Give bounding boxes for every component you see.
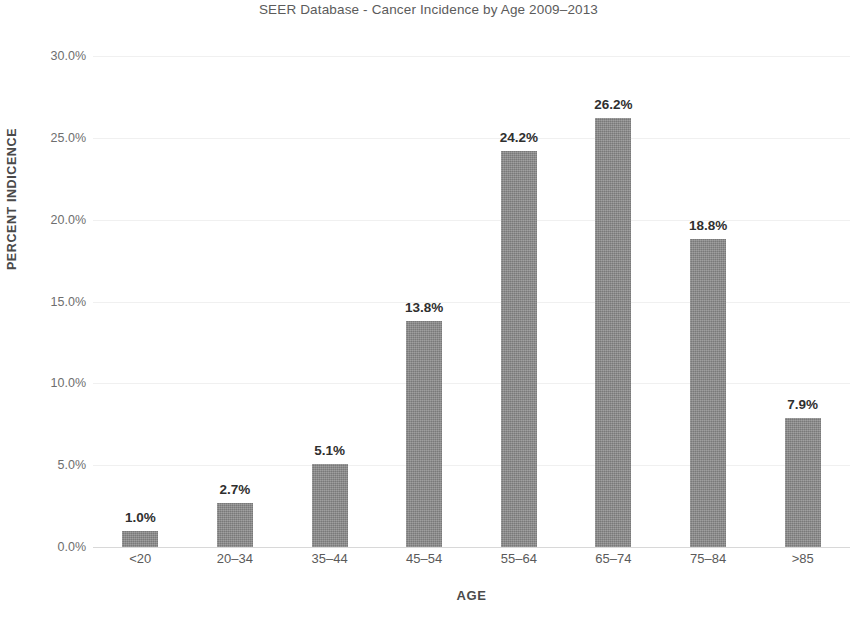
bar-group: 7.9% xyxy=(785,56,821,547)
bar-group: 1.0% xyxy=(122,56,158,547)
x-axis-title: AGE xyxy=(93,588,850,603)
x-axis-tick-label: 65–74 xyxy=(595,551,631,566)
bar-value-label: 2.7% xyxy=(220,482,251,497)
x-axis-tick-label: 55–64 xyxy=(501,551,537,566)
bar[interactable] xyxy=(501,151,537,547)
x-axis-tick-label: <20 xyxy=(129,551,151,566)
y-axis-tick-labels: 0.0%5.0%10.0%15.0%20.0%25.0%30.0% xyxy=(0,56,86,547)
gridline xyxy=(93,56,850,57)
y-axis-tick-label: 25.0% xyxy=(51,131,86,145)
bar-value-label: 1.0% xyxy=(125,510,156,525)
y-axis-tick-label: 30.0% xyxy=(51,49,86,63)
bar-value-label: 18.8% xyxy=(689,218,727,233)
y-axis-tick-label: 15.0% xyxy=(51,295,86,309)
x-axis-tick-label: >85 xyxy=(792,551,814,566)
plot-area: 1.0%2.7%5.1%13.8%24.2%26.2%18.8%7.9% xyxy=(93,56,850,547)
bar[interactable] xyxy=(406,321,442,547)
x-axis-tick-label: 45–54 xyxy=(406,551,442,566)
bar-group: 18.8% xyxy=(690,56,726,547)
bar-group: 13.8% xyxy=(406,56,442,547)
gridline xyxy=(93,465,850,466)
bar[interactable] xyxy=(122,531,158,547)
gridline xyxy=(93,383,850,384)
x-axis-tick-label: 20–34 xyxy=(217,551,253,566)
bar-group: 24.2% xyxy=(501,56,537,547)
bar[interactable] xyxy=(217,503,253,547)
bar[interactable] xyxy=(595,118,631,547)
gridline xyxy=(93,220,850,221)
y-axis-tick-label: 5.0% xyxy=(58,458,87,472)
bar[interactable] xyxy=(785,418,821,547)
bar[interactable] xyxy=(690,239,726,547)
y-axis-tick-label: 10.0% xyxy=(51,376,86,390)
bar-value-label: 5.1% xyxy=(314,443,345,458)
x-axis-baseline xyxy=(93,547,850,548)
bar-value-label: 7.9% xyxy=(787,397,818,412)
gridline xyxy=(93,302,850,303)
bar-value-label: 24.2% xyxy=(500,130,538,145)
bar-value-label: 13.8% xyxy=(405,300,443,315)
bar-value-label: 26.2% xyxy=(594,97,632,112)
y-axis-tick-label: 20.0% xyxy=(51,213,86,227)
bar-chart-figure: SEER Database - Cancer Incidence by Age … xyxy=(0,0,857,626)
x-axis-tick-labels: <2020–3435–4445–5455–6465–7475–84>85 xyxy=(93,551,850,579)
bar-group: 5.1% xyxy=(312,56,348,547)
bar-group: 26.2% xyxy=(595,56,631,547)
bar[interactable] xyxy=(312,464,348,547)
chart-title: SEER Database - Cancer Incidence by Age … xyxy=(0,2,857,17)
bar-group: 2.7% xyxy=(217,56,253,547)
x-axis-tick-label: 35–44 xyxy=(311,551,347,566)
x-axis-tick-label: 75–84 xyxy=(690,551,726,566)
y-axis-tick-label: 0.0% xyxy=(58,540,87,554)
gridline xyxy=(93,138,850,139)
